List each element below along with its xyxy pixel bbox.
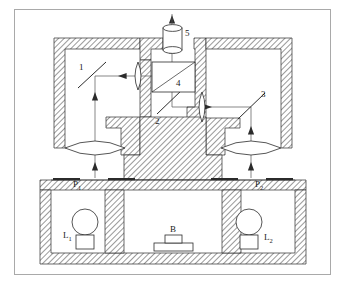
arrow-up-right-lower <box>248 162 254 171</box>
label-lamp-right: L2 <box>264 232 273 244</box>
beam-splitter-cube <box>152 62 195 92</box>
specimen-block <box>154 235 193 251</box>
optical-schematic-figure: 1 2 3 4 5 P1 P2 L1 L2 B <box>0 0 347 291</box>
housing-divider-left <box>105 190 124 253</box>
housing-top-center-left <box>140 38 163 60</box>
lamp-right <box>236 209 262 249</box>
label-eyepiece: 5 <box>185 28 190 38</box>
label-mirror-3: 3 <box>261 89 266 99</box>
arrow-up-right-upper <box>248 126 254 135</box>
arrow-right-left-arm <box>118 73 127 79</box>
lens-condenser-right <box>221 141 281 155</box>
lamp-left <box>72 209 98 249</box>
label-mirror-2: 2 <box>155 116 160 126</box>
eyepiece-cylinder <box>163 25 182 54</box>
arrow-up-left-lower <box>92 162 98 171</box>
schematic-drawing: 1 2 3 4 5 P1 P2 L1 L2 B <box>0 0 347 291</box>
label-mirror-1: 1 <box>79 62 84 72</box>
label-lamp-left: L1 <box>63 230 72 242</box>
arrow-up-left-upper <box>92 92 98 101</box>
label-specimen: B <box>170 224 176 234</box>
housing-center-column <box>140 60 151 117</box>
lens-condenser-left <box>65 141 125 155</box>
label-beam-splitter-cube: 4 <box>176 78 181 88</box>
